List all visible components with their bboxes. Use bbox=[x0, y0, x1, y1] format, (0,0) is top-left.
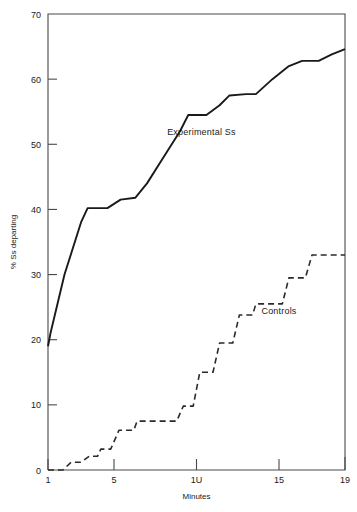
series-annotation-experimental-ss: Experimental Ss bbox=[167, 127, 236, 137]
y-tick-label-60: 60 bbox=[31, 75, 41, 85]
y-tick-label-0: 0 bbox=[36, 466, 41, 476]
x-axis-title: Minutes bbox=[182, 492, 210, 501]
y-tick-label-50: 50 bbox=[31, 140, 41, 150]
chart-figure: 010203040506070 151U1519 % Ss departing … bbox=[0, 0, 357, 512]
y-tick-label-20: 20 bbox=[31, 335, 41, 345]
x-tick-label-1U: 1U bbox=[191, 475, 203, 485]
y-tick-label-10: 10 bbox=[31, 400, 41, 410]
series-annotation-controls: Controls bbox=[261, 306, 296, 316]
line-chart: 010203040506070 151U1519 % Ss departing … bbox=[0, 0, 357, 512]
x-tick-label-1: 1 bbox=[45, 475, 50, 485]
y-tick-label-70: 70 bbox=[31, 10, 41, 20]
x-tick-label-5: 5 bbox=[111, 475, 116, 485]
chart-background bbox=[0, 0, 357, 512]
x-tick-label-15: 15 bbox=[274, 475, 284, 485]
y-tick-label-30: 30 bbox=[31, 270, 41, 280]
y-axis-title: % Ss departing bbox=[9, 215, 18, 269]
x-tick-label-19: 19 bbox=[340, 475, 350, 485]
y-tick-label-40: 40 bbox=[31, 205, 41, 215]
